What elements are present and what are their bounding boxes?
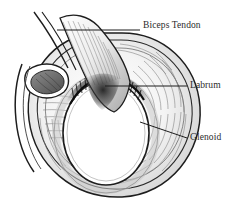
label-labrum: Labrum bbox=[190, 81, 221, 91]
anatomical-figure: Biceps Tendon Labrum Glenoid bbox=[0, 0, 244, 218]
shoulder-glenoid-illustration bbox=[0, 0, 244, 218]
label-biceps-tendon: Biceps Tendon bbox=[143, 21, 201, 31]
label-glenoid: Glenoid bbox=[190, 133, 221, 143]
